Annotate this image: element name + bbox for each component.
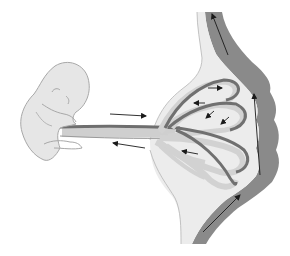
embryo: [21, 62, 90, 160]
arrow-cord-outflow-icon: [113, 143, 145, 148]
umbilical-cord-light: [62, 132, 175, 133]
diagram-canvas: [0, 0, 290, 256]
placental-circulation-diagram: [0, 0, 290, 256]
arrow-cord-inflow-icon: [110, 114, 146, 116]
